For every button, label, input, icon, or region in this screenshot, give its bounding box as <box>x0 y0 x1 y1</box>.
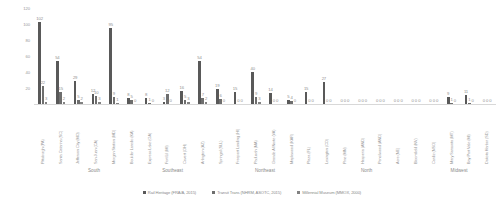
bar[interactable] <box>116 103 119 104</box>
bar[interactable] <box>450 103 453 104</box>
bar-cluster: 850 <box>123 8 141 104</box>
bar[interactable] <box>109 28 112 104</box>
bar[interactable] <box>234 92 237 104</box>
bar-cluster: 000 <box>372 8 390 104</box>
bar[interactable] <box>269 93 272 104</box>
bar[interactable] <box>187 102 190 104</box>
x-label-cell: Jefferson City (MO) <box>70 106 88 164</box>
bar[interactable] <box>45 102 48 104</box>
bar[interactable] <box>166 94 169 104</box>
bar-cluster: 2700 <box>318 8 336 104</box>
bar[interactable] <box>287 100 290 104</box>
bar[interactable] <box>447 97 450 104</box>
bar-cluster: 12103 <box>87 8 105 104</box>
bar-value-label: 0 <box>169 98 171 103</box>
bar-slot: 8 <box>145 8 148 104</box>
bar[interactable] <box>77 100 80 104</box>
bar-slot: 0 <box>329 8 332 104</box>
bar-slot: 1 <box>450 8 453 104</box>
y-axis-tick: 20 <box>26 86 30 91</box>
bar-value-label: 0 <box>362 98 364 103</box>
bar-slot: 5 <box>184 8 187 104</box>
legend-item[interactable]: Millennial Museum (MMOX, 2000) <box>297 190 361 195</box>
bar[interactable] <box>95 96 98 104</box>
x-axis-label: Covert (OH) <box>183 106 187 164</box>
bar-value-label: 0 <box>429 98 431 103</box>
bar[interactable] <box>74 81 77 104</box>
bar[interactable] <box>323 82 326 104</box>
bar[interactable] <box>56 61 59 104</box>
bar[interactable] <box>163 102 166 104</box>
bar[interactable] <box>201 98 204 104</box>
bar[interactable] <box>130 100 133 104</box>
bar-slot: 0 <box>347 8 350 104</box>
bar-cluster: 102223 <box>34 8 52 104</box>
bar-cluster: 000 <box>336 8 354 104</box>
bar[interactable] <box>290 101 293 104</box>
x-axis-label: Hesperia (AND) <box>361 106 365 164</box>
legend-item[interactable]: Rail Heritage (FRA/A, 2015) <box>143 190 196 195</box>
bar[interactable] <box>98 102 101 104</box>
bar[interactable] <box>180 91 183 104</box>
bar-value-label: 5 <box>131 94 133 99</box>
bar[interactable] <box>63 102 66 104</box>
bar[interactable] <box>184 100 187 104</box>
bar-slot: 9 <box>255 8 258 104</box>
bar-value-label: 3 <box>258 96 260 101</box>
bar[interactable] <box>92 94 95 104</box>
bar[interactable] <box>127 98 130 104</box>
bar-value-label: 0 <box>358 98 360 103</box>
region-group-label: Southeast <box>162 168 183 173</box>
bar-slot: 0 <box>151 8 154 104</box>
bar-slot: 11 <box>465 8 468 104</box>
bar[interactable] <box>468 103 471 104</box>
bar[interactable] <box>205 102 208 104</box>
bar-cluster: 910 <box>443 8 461 104</box>
bar-value-label: 0 <box>134 98 136 103</box>
bar-slot: 12 <box>166 8 169 104</box>
bar[interactable] <box>219 99 222 104</box>
bar[interactable] <box>113 97 116 104</box>
x-label-cell: Boulder Laredo (KA) <box>123 106 141 164</box>
bar[interactable] <box>42 86 45 104</box>
bar[interactable] <box>216 89 219 104</box>
bar-value-label: 0 <box>454 98 456 103</box>
bar-slot: 3 <box>98 8 101 104</box>
bar-slot: 1 <box>468 8 471 104</box>
bar-slot: 3 <box>258 8 261 104</box>
bar[interactable] <box>258 102 261 104</box>
bar-value-label: 2 <box>205 96 207 101</box>
x-label-cell: Pittsburgh (PA) <box>34 106 52 164</box>
x-axis-label: Acre (NE) <box>396 106 400 164</box>
bar-cluster: 1500 <box>229 8 247 104</box>
bar[interactable] <box>251 72 254 104</box>
bar[interactable] <box>145 98 148 104</box>
bar[interactable] <box>38 22 41 104</box>
x-axis-labels: Pittsburgh (PA)Santa Catarina (SC)Jeffer… <box>34 106 496 164</box>
bar-slot: 0 <box>379 8 382 104</box>
bar-cluster: 1500 <box>300 8 318 104</box>
bar-slot: 0 <box>344 8 347 104</box>
x-axis-label: Grande Al Norte (VA) <box>272 106 276 164</box>
bar-slot: 0 <box>411 8 414 104</box>
bar-slot: 2 <box>80 8 83 104</box>
bar-slot: 0 <box>223 8 226 104</box>
x-label-cell: Lexington (CO) <box>318 106 336 164</box>
bar[interactable] <box>59 92 62 104</box>
bar-slot: 0 <box>436 8 439 104</box>
bar-value-label: 0 <box>489 98 491 103</box>
bar-slot: 0 <box>237 8 240 104</box>
y-axis-tick: 120 <box>23 6 30 11</box>
bar[interactable] <box>80 102 83 104</box>
bar[interactable] <box>148 103 151 104</box>
x-axis-label: Paducah (MA) <box>254 106 258 164</box>
bar[interactable] <box>465 95 468 104</box>
bar-slot: 0 <box>365 8 368 104</box>
x-label-cell: Mary Sarasota (MT) <box>443 106 461 164</box>
bar[interactable] <box>198 61 201 104</box>
bar[interactable] <box>255 97 258 104</box>
bar-slot: 6 <box>219 8 222 104</box>
legend-item[interactable]: Transit Trans (NHRM, ASOTC, 2015) <box>212 190 281 195</box>
bar-slot: 10 <box>95 8 98 104</box>
bar[interactable] <box>305 92 308 104</box>
